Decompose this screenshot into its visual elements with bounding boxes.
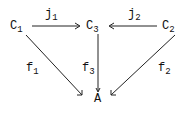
node-c2: C2 [162,20,175,32]
label-f3: f3 [82,62,95,74]
label-f2: f2 [158,62,171,74]
node-c3: C3 [86,20,99,32]
node-a: A [94,93,101,105]
label-j2: j2 [128,8,141,20]
node-c1: C1 [10,20,23,32]
label-j1: j1 [45,8,58,20]
diagram-arrows [0,0,184,116]
label-f1: f1 [26,62,39,74]
